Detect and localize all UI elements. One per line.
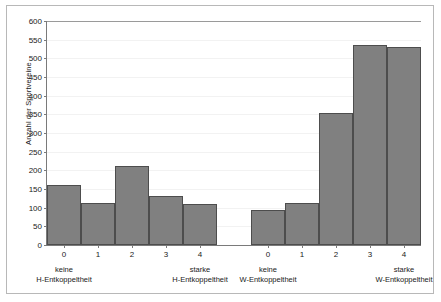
x-tick-label: 0 [62,250,66,259]
y-tick-mark [44,133,47,134]
y-axis-title: Anzahl der Sportvereine [24,24,33,184]
x-tick-label: 3 [164,250,168,259]
gridline [47,21,421,22]
y-tick-label: 500 [29,54,42,63]
caption-line-2: W-Entkoppeltheit [240,275,297,285]
y-tick-mark [44,21,47,22]
y-tick-label: 50 [33,222,42,231]
x-tick-label: 2 [334,250,338,259]
y-tick-mark [44,170,47,171]
x-tick-mark [336,245,337,248]
group-caption-w-entkoppeltheit-left: keineW-Entkoppeltheit [240,265,297,285]
caption-line-1: starke [190,265,210,274]
y-tick-mark [44,58,47,59]
x-tick-mark [268,245,269,248]
x-tick-label: 3 [368,250,372,259]
y-tick-label: 250 [29,147,42,156]
x-tick-label: 1 [96,250,100,259]
y-tick-mark [44,245,47,246]
x-tick-label: 4 [198,250,202,259]
bar-chart-figure: Anzahl der Sportvereine 6005505004504003… [0,0,441,302]
group-caption-h-entkoppeltheit-left: keineH-Entkoppeltheit [36,265,91,285]
x-tick-label: 0 [266,250,270,259]
bar-h-entkoppeltheit-4[interactable] [183,204,217,245]
x-tick-mark [302,245,303,248]
bar-w-entkoppeltheit-1[interactable] [285,203,319,245]
group-caption-h-entkoppeltheit-right: starkeH-Entkoppeltheit [172,265,227,285]
bar-w-entkoppeltheit-2[interactable] [319,113,353,245]
caption-line-1: starke [394,265,414,274]
caption-line-2: H-Entkoppeltheit [36,275,91,285]
y-tick-label: 0 [38,241,42,250]
x-tick-mark [64,245,65,248]
y-tick-mark [44,96,47,97]
y-tick-label: 100 [29,203,42,212]
y-tick-label: 400 [29,91,42,100]
bar-h-entkoppeltheit-2[interactable] [115,166,149,245]
bar-w-entkoppeltheit-4[interactable] [387,47,421,245]
y-tick-label: 600 [29,17,42,26]
x-tick-mark [132,245,133,248]
y-tick-mark [44,114,47,115]
bar-w-entkoppeltheit-3[interactable] [353,45,387,245]
gridline [47,40,421,41]
y-tick-label: 200 [29,166,42,175]
x-tick-label: 2 [130,250,134,259]
y-tick-mark [44,40,47,41]
caption-line-2: H-Entkoppeltheit [172,275,227,285]
bar-h-entkoppeltheit-0[interactable] [47,185,81,245]
x-tick-mark [370,245,371,248]
bar-h-entkoppeltheit-3[interactable] [149,196,183,245]
plot-area: 6005505004504003503002502001501005000123… [46,21,421,246]
y-tick-label: 300 [29,129,42,138]
bar-w-entkoppeltheit-0[interactable] [251,210,285,245]
y-tick-label: 150 [29,185,42,194]
x-tick-mark [200,245,201,248]
x-tick-label: 1 [300,250,304,259]
bar-h-entkoppeltheit-1[interactable] [81,203,115,245]
group-caption-w-entkoppeltheit-right: starkeW-Entkoppeltheit [376,265,433,285]
x-tick-mark [404,245,405,248]
y-tick-label: 450 [29,73,42,82]
y-tick-label: 350 [29,110,42,119]
x-tick-mark [166,245,167,248]
y-tick-mark [44,77,47,78]
x-tick-mark [98,245,99,248]
y-tick-label: 550 [29,35,42,44]
y-tick-mark [44,152,47,153]
caption-line-1: keine [259,265,277,274]
caption-line-1: keine [55,265,73,274]
x-tick-label: 4 [402,250,406,259]
caption-line-2: W-Entkoppeltheit [376,275,433,285]
